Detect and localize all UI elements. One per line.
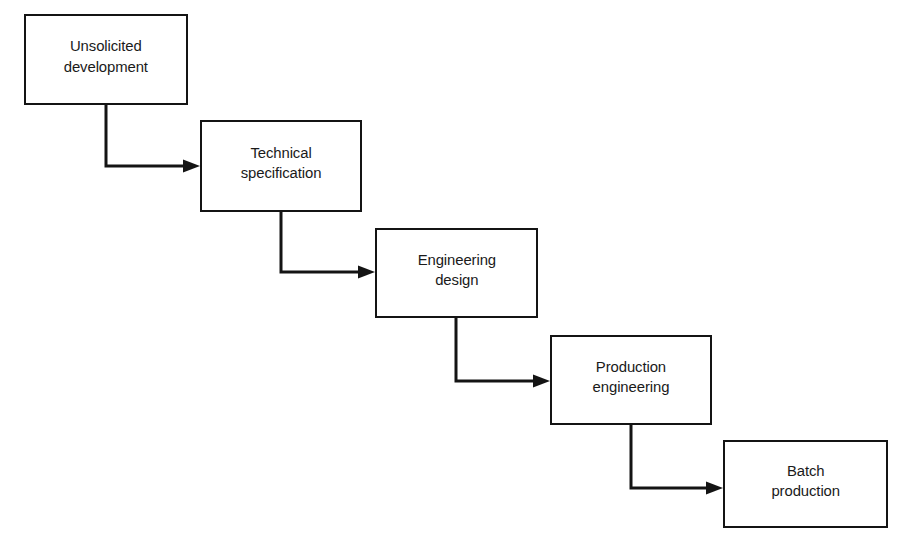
node-label: Engineering design [417,250,495,297]
node-production-engineering[interactable]: Production engineering [550,335,712,425]
arrowhead-icon [706,482,723,495]
connector-line [456,318,544,381]
arrowhead-icon [358,266,375,279]
node-unsolicited-development[interactable]: Unsolicited development [24,14,188,105]
connector-line [631,425,717,488]
node-technical-specification[interactable]: Technical specification [200,120,362,212]
node-label: Batch production [771,461,840,508]
arrowhead-icon [533,375,550,388]
node-label: Production engineering [593,357,670,404]
connector-line [106,105,194,166]
node-engineering-design[interactable]: Engineering design [375,228,538,318]
connector-line [281,212,369,272]
node-batch-production[interactable]: Batch production [723,440,888,528]
arrowhead-icon [183,160,200,173]
diagram-canvas: Unsolicited development Technical specif… [0,0,906,552]
node-label: Unsolicited development [64,36,148,83]
node-label: Technical specification [241,143,322,190]
